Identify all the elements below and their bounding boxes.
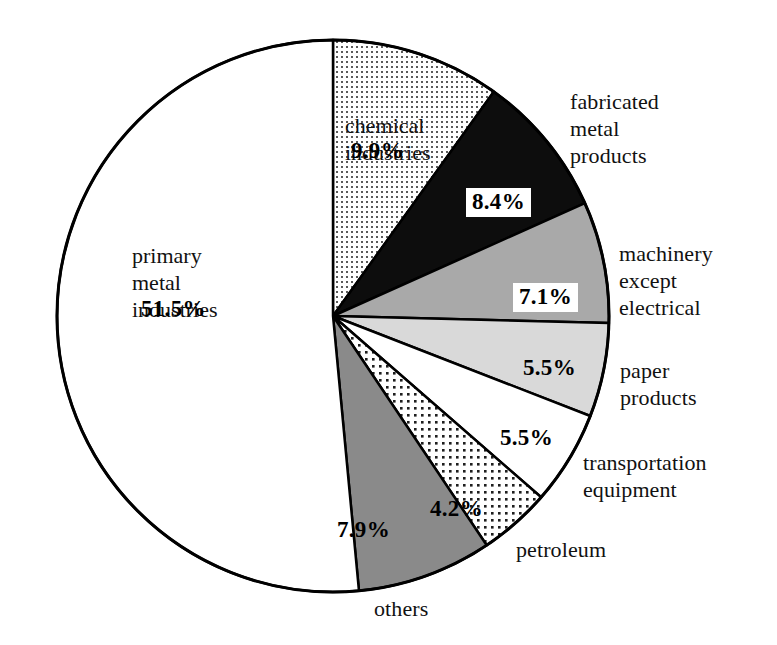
slice-value-transportation-equipment: 5.5% (500, 425, 553, 451)
slice-value-petroleum: 4.2% (430, 496, 483, 522)
slice-label-petroleum: petroleum (516, 536, 606, 563)
slice-value-primary-metal-industries: 51.5% (141, 296, 206, 322)
slice-label-fabricated-metal-products: fabricated metal products (570, 88, 659, 169)
slice-value-chemical-industries: 9.9% (351, 138, 404, 164)
slice-label-machinery-except-electrical: machinery except electrical (619, 240, 713, 321)
slice-label-paper-products: paper products (620, 357, 697, 411)
pie-chart: primary metal industries 51.5% chemical … (0, 0, 777, 645)
slice-label-transportation-equipment: transportation equipment (583, 449, 707, 503)
slice-label-others: others (374, 595, 428, 622)
slice-value-machinery-except-electrical: 7.1% (513, 283, 578, 312)
slice-value-fabricated-metal-products: 8.4% (466, 188, 531, 217)
slice-value-paper-products: 5.5% (523, 355, 576, 381)
slice-value-others: 7.9% (337, 517, 390, 543)
